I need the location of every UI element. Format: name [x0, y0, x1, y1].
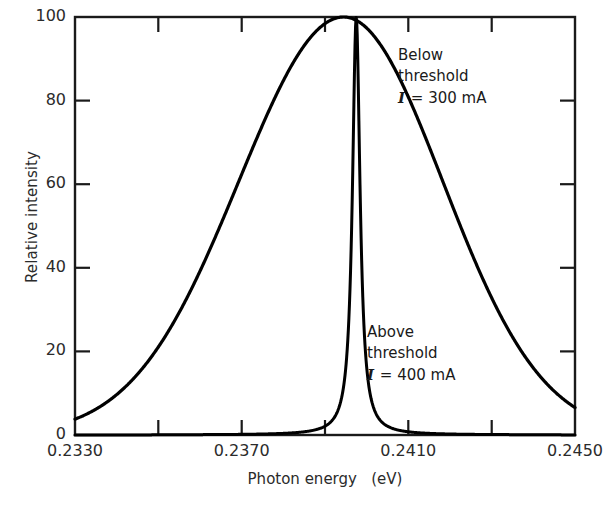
annotation-above-line2: threshold — [367, 343, 455, 364]
curve-above-threshold — [75, 17, 575, 435]
curve-below-threshold — [75, 17, 575, 419]
annotation-below-line2: threshold — [398, 66, 486, 87]
current-value-above: = 400 mA — [380, 366, 456, 384]
current-symbol-below: I — [398, 89, 406, 107]
annotation-above-line1: Above — [367, 322, 455, 343]
photon-energy-spectrum-figure: Relative intensity 100 80 60 40 20 0 0.2… — [0, 0, 616, 508]
current-symbol-above: I — [367, 366, 375, 384]
current-value-below: = 300 mA — [411, 89, 487, 107]
spectrum-curves — [75, 17, 575, 435]
plot-frame — [75, 17, 575, 435]
y-axis-ticks-right — [560, 101, 575, 352]
y-axis-ticks — [75, 101, 90, 352]
annotation-below-line3: I = 300 mA — [398, 88, 486, 109]
annotation-above-threshold: Above threshold I = 400 mA — [367, 322, 455, 386]
annotation-below-threshold: Below threshold I = 300 mA — [398, 45, 486, 109]
plot-area — [0, 0, 616, 508]
annotation-above-line3: I = 400 mA — [367, 365, 455, 386]
annotation-below-line1: Below — [398, 45, 486, 66]
